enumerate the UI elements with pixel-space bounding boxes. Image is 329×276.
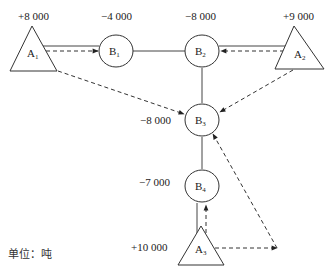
value-b4: −7 000: [139, 176, 170, 188]
value-b3: −8 000: [140, 114, 171, 126]
flow-arrows: [46, 51, 293, 248]
supply-node-a1: A1 +8 000: [10, 10, 57, 71]
demand-node-b4: B4 −7 000: [139, 170, 219, 202]
transport-network-diagram: A1 +8 000 B1 −4 000 B2 −8 000 A2 +9 000 …: [0, 0, 329, 276]
demand-node-b2: B2 −8 000: [185, 10, 219, 67]
flow-corner-b3: [213, 134, 277, 248]
unit-label: 单位：吨: [8, 245, 52, 261]
value-a1: +8 000: [18, 10, 49, 22]
value-a3: +10 000: [131, 241, 168, 253]
supply-node-a2: A2 +9 000: [275, 10, 324, 69]
demand-node-b3: B3 −8 000: [140, 104, 219, 136]
value-b1: −4 000: [101, 10, 132, 22]
demand-node-b1: B1 −4 000: [99, 10, 133, 67]
flow-a2-b3: [220, 70, 293, 112]
network-edges: [42, 46, 286, 233]
value-a2: +9 000: [283, 10, 314, 22]
supply-node-a3: A3 +10 000: [131, 226, 224, 265]
flow-a1-b3: [58, 71, 184, 114]
value-b2: −8 000: [185, 10, 216, 22]
